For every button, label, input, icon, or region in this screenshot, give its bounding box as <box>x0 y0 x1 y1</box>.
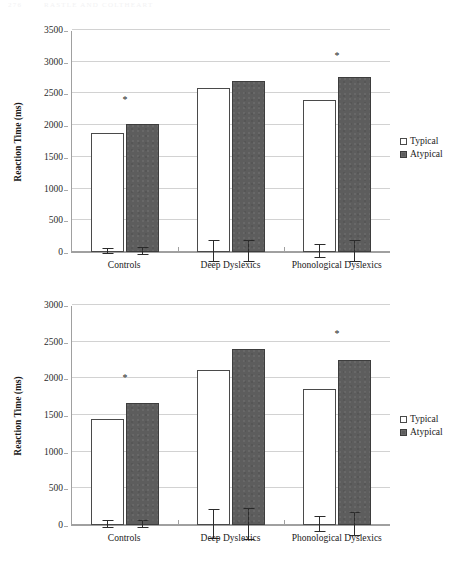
error-bar-stem <box>213 240 214 262</box>
error-bar <box>349 240 360 262</box>
y-axis-ticks: 050010001500200025003000 <box>18 292 68 561</box>
error-bar <box>102 248 113 253</box>
y-axis-label: Reaction Time (ms) <box>2 306 18 526</box>
error-bar-stem <box>319 516 320 533</box>
bar-slot <box>232 31 265 252</box>
error-bar <box>208 240 219 262</box>
y-axis-tick-mark <box>64 63 68 64</box>
bar-atypical[interactable] <box>338 77 371 252</box>
error-bar-cap-bottom <box>314 257 325 258</box>
x-axis-tick-label: Deep Dyslexics <box>177 533 283 543</box>
error-bar-stem <box>319 244 320 258</box>
y-axis-tick-mark <box>64 126 68 127</box>
error-bar-cap-top <box>102 248 113 249</box>
bar-slot <box>197 31 230 252</box>
y-axis-tick-label: 2500 <box>44 338 63 348</box>
plot-area: ** <box>71 306 390 526</box>
bar-typical[interactable] <box>91 133 124 252</box>
y-axis-tick-label: 2000 <box>44 375 63 385</box>
y-axis-tick-mark <box>64 379 68 380</box>
bar-group <box>178 306 284 525</box>
chart-legend: TypicalAtypical <box>400 414 443 440</box>
bar-slot <box>91 306 124 525</box>
x-axis-labels: ControlsDeep DyslexicsPhonological Dysle… <box>71 533 390 543</box>
hollow-square-icon <box>400 138 407 145</box>
bar-typical[interactable] <box>197 88 230 252</box>
error-bar-cap-bottom <box>137 254 148 255</box>
y-axis-tick-mark <box>64 221 68 222</box>
bar-atypical[interactable] <box>338 360 371 525</box>
y-axis-label: Reaction Time (ms) <box>2 31 18 253</box>
bar-slot <box>338 306 371 525</box>
legend-item-atypical[interactable]: Atypical <box>400 427 443 437</box>
error-bar-cap-bottom <box>137 527 148 528</box>
error-bar-stem <box>248 240 249 262</box>
bar-atypical[interactable] <box>232 349 265 525</box>
y-axis-tick-mark <box>64 306 68 307</box>
x-axis-tick-label: Controls <box>71 533 177 543</box>
y-axis-tick-label: 0 <box>58 521 63 531</box>
y-axis-tick-mark <box>64 158 68 159</box>
error-bar-cap-top <box>349 512 360 513</box>
x-axis-labels: ControlsDeep DyslexicsPhonological Dysle… <box>71 260 390 270</box>
filled-square-icon <box>400 151 407 158</box>
bar-atypical[interactable] <box>232 81 265 252</box>
y-axis-tick-mark <box>64 526 68 527</box>
y-axis-tick-mark <box>64 489 68 490</box>
legend-item-atypical[interactable]: Atypical <box>400 149 443 159</box>
reaction-time-chart-top: Reaction Time (ms)0500100015002000250030… <box>0 18 468 290</box>
error-bar-cap-top <box>208 509 219 510</box>
error-bar-cap-top <box>102 520 113 521</box>
chart-legend: TypicalAtypical <box>400 136 443 162</box>
bar-slot <box>197 306 230 525</box>
y-axis-tick-mark <box>64 190 68 191</box>
bar-typical[interactable] <box>303 389 336 525</box>
legend-item-label: Typical <box>410 136 438 146</box>
bar-atypical[interactable] <box>126 124 159 252</box>
bar-typical[interactable] <box>91 419 124 525</box>
bar-typical[interactable] <box>197 370 230 525</box>
y-axis-tick-mark <box>64 94 68 95</box>
y-axis-tick-label: 1000 <box>44 448 63 458</box>
error-bar <box>137 520 148 529</box>
y-axis-tick-label: 3500 <box>44 26 63 36</box>
y-axis-tick-label: 1500 <box>44 153 63 163</box>
y-axis-tick-label: 3000 <box>44 301 63 311</box>
bar-typical[interactable] <box>303 100 336 252</box>
y-axis-tick-mark <box>64 453 68 454</box>
hollow-square-icon <box>400 416 407 423</box>
y-axis-tick-label: 500 <box>49 485 63 495</box>
error-bar-cap-top <box>208 240 219 241</box>
y-axis-tick-label: 500 <box>49 217 63 227</box>
bar-group: * <box>72 306 178 525</box>
page-number: 276 <box>8 1 22 9</box>
bar-group: * <box>72 31 178 252</box>
bar-atypical[interactable] <box>126 403 159 525</box>
error-bar-cap-top <box>137 247 148 248</box>
plot-area: ** <box>71 31 390 253</box>
bar-group <box>178 31 284 252</box>
bar-slot <box>338 31 371 252</box>
gridline <box>72 29 390 30</box>
legend-item-typical[interactable]: Typical <box>400 136 443 146</box>
error-bar-stem <box>354 240 355 262</box>
error-bar <box>137 247 148 256</box>
bar-group: * <box>284 306 390 525</box>
legend-item-label: Typical <box>410 414 438 424</box>
bar-groups: ** <box>72 31 390 252</box>
y-axis-tick-label: 2000 <box>44 121 63 131</box>
bar-slot <box>126 31 159 252</box>
error-bar <box>243 240 254 262</box>
y-axis-tick-label: 2500 <box>44 90 63 100</box>
error-bar-cap-top <box>243 508 254 509</box>
filled-square-icon <box>400 429 407 436</box>
error-bar-cap-top <box>349 240 360 241</box>
significance-asterisk: * <box>123 373 128 383</box>
page-running-header: 276RASTLE AND COLTHEART <box>8 1 258 10</box>
y-axis-tick-label: 1000 <box>44 185 63 195</box>
bar-slot <box>232 306 265 525</box>
gridline <box>72 304 390 305</box>
error-bar <box>314 244 325 258</box>
y-axis-tick-mark <box>64 31 68 32</box>
legend-item-typical[interactable]: Typical <box>400 414 443 424</box>
